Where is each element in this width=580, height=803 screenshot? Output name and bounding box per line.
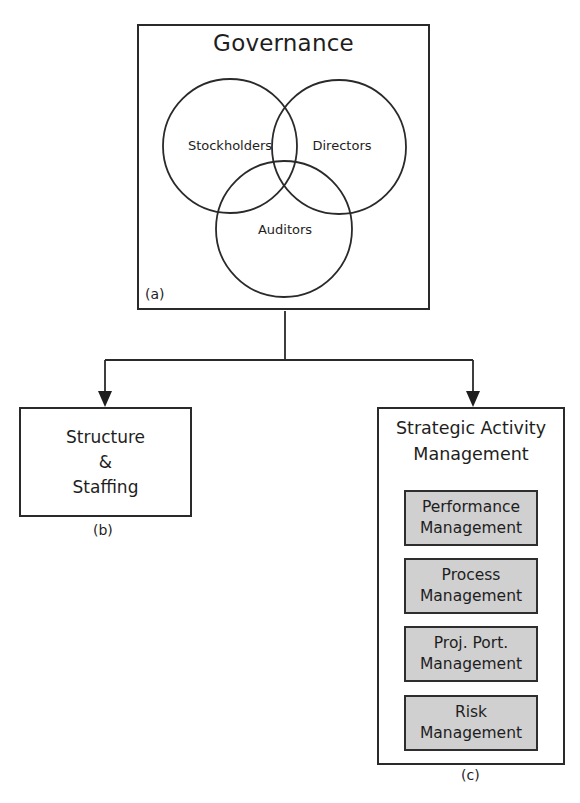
- ampersand-line: &: [66, 450, 145, 475]
- project-portfolio-management-box: Proj. Port. Management: [404, 626, 538, 682]
- directors-label: Directors: [282, 138, 402, 153]
- management-line: Management: [420, 518, 522, 539]
- risk-line: Risk: [420, 702, 522, 723]
- proj-port-line: Proj. Port.: [420, 633, 522, 654]
- process-line: Process: [420, 565, 522, 586]
- strategic-activity-title: Strategic Activity Management: [379, 415, 563, 467]
- auditors-label: Auditors: [225, 222, 345, 237]
- staffing-line: Staffing: [66, 475, 145, 500]
- panel-label-c: (c): [461, 767, 480, 783]
- management-line: Management: [420, 586, 522, 607]
- strategic-activity-title-line2: Management: [379, 441, 563, 467]
- performance-line: Performance: [420, 497, 522, 518]
- panel-label-a: (a): [145, 286, 165, 302]
- governance-title: Governance: [137, 30, 430, 56]
- strategic-activity-box: Strategic Activity Management Performanc…: [377, 407, 565, 765]
- strategic-activity-title-line1: Strategic Activity: [379, 415, 563, 441]
- process-management-box: Process Management: [404, 558, 538, 614]
- structure-line: Structure: [66, 425, 145, 450]
- structure-staffing-box: Structure & Staffing: [19, 407, 192, 517]
- structure-staffing-text: Structure & Staffing: [66, 425, 145, 500]
- left-arrowhead-icon: [98, 391, 112, 407]
- management-line: Management: [420, 654, 522, 675]
- governance-box: [137, 24, 430, 310]
- panel-label-b: (b): [93, 522, 113, 538]
- right-arrowhead-icon: [466, 391, 480, 407]
- risk-management-box: Risk Management: [404, 695, 538, 751]
- management-line: Management: [420, 723, 522, 744]
- stockholders-label: Stockholders: [170, 138, 290, 153]
- performance-management-box: Performance Management: [404, 490, 538, 546]
